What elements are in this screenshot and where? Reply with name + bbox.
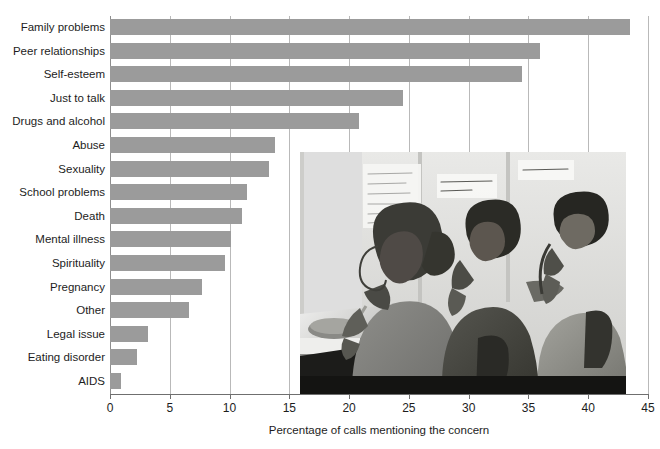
x-tick-mark — [110, 394, 111, 399]
bar — [110, 113, 359, 129]
category-label: Mental illness — [1, 233, 105, 245]
x-tick-label: 10 — [210, 401, 250, 415]
x-tick-mark — [289, 394, 290, 399]
x-tick-mark — [469, 394, 470, 399]
category-label: Other — [1, 304, 105, 316]
x-tick-mark — [588, 394, 589, 399]
bar — [110, 161, 269, 177]
bar-chart: Family problemsPeer relationshipsSelf-es… — [0, 0, 660, 449]
bar — [110, 255, 225, 271]
category-label: Just to talk — [1, 92, 105, 104]
x-tick-label: 30 — [449, 401, 489, 415]
photograph-image — [300, 152, 626, 394]
category-label: AIDS — [1, 375, 105, 387]
x-tick-mark — [409, 394, 410, 399]
category-label: Eating disorder — [1, 351, 105, 363]
bar — [110, 208, 242, 224]
category-label: Spirituality — [1, 257, 105, 269]
bar — [110, 279, 202, 295]
bar — [110, 373, 121, 389]
x-axis-title-text: Percentage of calls mentioning the conce… — [269, 424, 490, 436]
bar — [110, 231, 231, 247]
category-label: School problems — [1, 186, 105, 198]
x-tick-label: 40 — [568, 401, 608, 415]
bar — [110, 43, 540, 59]
x-tick-label: 0 — [90, 401, 130, 415]
x-tick-label: 5 — [150, 401, 190, 415]
x-tick-mark — [170, 394, 171, 399]
x-axis-title: Percentage of calls mentioning the conce… — [110, 424, 648, 436]
category-label: Peer relationships — [1, 45, 105, 57]
bar-row — [110, 87, 648, 111]
x-tick-label: 25 — [389, 401, 429, 415]
category-label: Family problems — [1, 21, 105, 33]
category-label: Abuse — [1, 139, 105, 151]
category-label: Self-esteem — [1, 68, 105, 80]
x-tick-mark — [349, 394, 350, 399]
x-axis-line — [110, 394, 649, 395]
x-tick-mark — [648, 394, 649, 399]
bar — [110, 349, 137, 365]
hotline-photograph — [300, 152, 626, 394]
category-label: Legal issue — [1, 328, 105, 340]
category-label: Pregnancy — [1, 281, 105, 293]
bar — [110, 326, 148, 342]
bar-row — [110, 110, 648, 134]
category-axis-labels: Family problemsPeer relationshipsSelf-es… — [0, 16, 105, 394]
bar — [110, 19, 630, 35]
x-tick-label: 20 — [329, 401, 369, 415]
bar-row — [110, 16, 648, 40]
bar — [110, 90, 403, 106]
gridline-45 — [648, 16, 649, 394]
x-tick-mark — [230, 394, 231, 399]
category-label: Sexuality — [1, 163, 105, 175]
bar — [110, 66, 522, 82]
x-tick-label: 45 — [628, 401, 660, 415]
x-tick-label: 35 — [508, 401, 548, 415]
x-tick-label: 15 — [269, 401, 309, 415]
bar-row — [110, 40, 648, 64]
x-tick-mark — [528, 394, 529, 399]
bar-row — [110, 63, 648, 87]
bar — [110, 184, 247, 200]
category-label: Drugs and alcohol — [1, 115, 105, 127]
bar — [110, 302, 189, 318]
category-label: Death — [1, 210, 105, 222]
bar — [110, 137, 275, 153]
